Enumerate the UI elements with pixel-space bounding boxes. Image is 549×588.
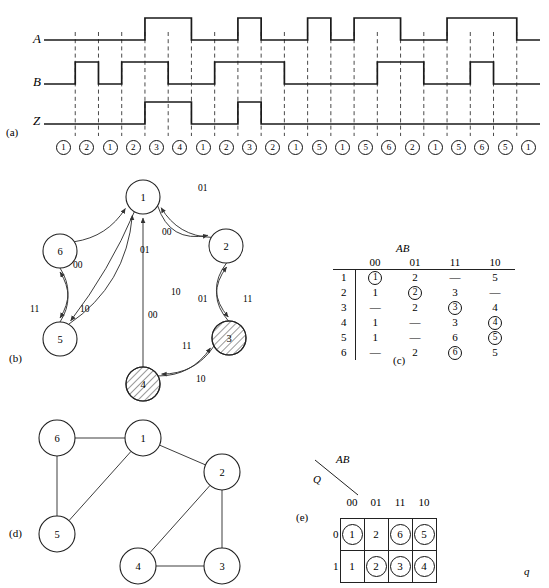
stable-state: 3 xyxy=(448,301,462,315)
merger-node: 1 xyxy=(125,420,161,456)
part-label-c: (c) xyxy=(393,354,405,366)
stable-state: 6 xyxy=(390,524,411,545)
stable-state: 5 xyxy=(488,331,502,345)
flow-table-cell: 2 xyxy=(395,269,435,285)
reduced-flow-table: 00011110 0126511234 xyxy=(332,487,437,583)
flow-table-col-header: 11 xyxy=(435,256,475,269)
stable-state: 2 xyxy=(408,286,422,300)
stable-state: 1 xyxy=(368,271,382,285)
flow-table-cell: 6 xyxy=(435,330,475,345)
stable-state: 5 xyxy=(414,524,435,545)
flow-table-cell: — xyxy=(355,345,395,360)
reduced-table-cell: 1 xyxy=(340,550,364,582)
flow-table-col-header: 10 xyxy=(475,256,515,269)
reduced-table-row-label: 0 xyxy=(332,518,340,550)
stable-state: 2 xyxy=(366,556,387,577)
state-number: 5 xyxy=(312,140,327,155)
flow-table-cell: 4 xyxy=(475,315,515,330)
flow-table-cell: 1 xyxy=(355,330,395,345)
state-cell: 1 xyxy=(331,140,354,155)
reduced-table-cell: 2 xyxy=(364,518,388,550)
reduced-input-header: AB xyxy=(336,453,349,465)
state-number: 1 xyxy=(335,140,350,155)
reduced-table-cell: 6 xyxy=(388,518,412,550)
merger-node-label: 1 xyxy=(140,433,145,444)
flow-table-row-label: 2 xyxy=(333,285,355,300)
state-number: 6 xyxy=(474,140,489,155)
merger-node-label: 6 xyxy=(54,433,59,444)
flow-table-row-label: 5 xyxy=(333,330,355,345)
state-number: 2 xyxy=(405,140,420,155)
state-cell: 5 xyxy=(308,140,331,155)
state-cell: 5 xyxy=(354,140,377,155)
reduced-table-cell: 1 xyxy=(340,518,364,550)
merger-node-label: 3 xyxy=(219,561,224,572)
flow-table-panel: AB 00011110 112—52123—3—23441—3451—656—2… xyxy=(333,244,515,360)
state-number: 1 xyxy=(521,140,536,155)
state-cell: 6 xyxy=(470,140,493,155)
flow-table-row-label: 1 xyxy=(333,269,355,285)
state-number: 5 xyxy=(451,140,466,155)
stable-state: 4 xyxy=(414,556,435,577)
state-cell: 1 xyxy=(424,140,447,155)
flow-table-cell: 4 xyxy=(475,300,515,315)
reduced-table-cell: 2 xyxy=(364,550,388,582)
reduced-table-col-header: 00 xyxy=(340,487,364,518)
part-label-e: (e) xyxy=(296,511,308,523)
flow-table-cell: 1 xyxy=(355,315,395,330)
flow-table-row-label: 6 xyxy=(333,345,355,360)
merger-edge xyxy=(160,445,206,465)
state-number: 1 xyxy=(428,140,443,155)
state-number: 5 xyxy=(358,140,373,155)
flow-table-cell: — xyxy=(475,285,515,300)
flow-table-cell: 1 xyxy=(355,285,395,300)
flow-table-row: 41—34 xyxy=(333,315,515,330)
flow-table-cell: — xyxy=(395,330,435,345)
flow-table-cell: 1 xyxy=(355,269,395,285)
reduced-table-cell: 3 xyxy=(388,550,412,582)
state-number: 1 xyxy=(288,140,303,155)
flow-table-row: 6—265 xyxy=(333,345,515,360)
flow-table-cell: 6 xyxy=(435,345,475,360)
reduced-table-col-header: 11 xyxy=(388,487,412,518)
merger-graph-panel: (d) 612543 xyxy=(0,0,290,588)
state-cell: 1 xyxy=(517,140,540,155)
merger-node-label: 4 xyxy=(135,561,141,572)
flow-table-cell: — xyxy=(435,269,475,285)
state-cell: 6 xyxy=(377,140,400,155)
flow-table: 00011110 112—52123—3—23441—3451—656—265 xyxy=(333,256,515,360)
flow-table-cell: 5 xyxy=(475,345,515,360)
flow-table-col-header: 00 xyxy=(355,256,395,269)
reduced-table-cell: 4 xyxy=(412,550,436,582)
flow-table-row: 112—5 xyxy=(333,269,515,285)
merger-graph-canvas: 612543 xyxy=(0,0,290,588)
flow-table-cell: 2 xyxy=(395,285,435,300)
flow-table-cell: 2 xyxy=(395,300,435,315)
merger-node: 2 xyxy=(204,454,240,490)
merger-node-label: 2 xyxy=(219,467,224,478)
state-number: 5 xyxy=(498,140,513,155)
flow-table-row: 2123— xyxy=(333,285,515,300)
flow-table-row: 51—65 xyxy=(333,330,515,345)
flow-table-cell: 5 xyxy=(475,269,515,285)
flow-table-cell: 3 xyxy=(435,300,475,315)
reduced-table-row: 01265 xyxy=(332,518,436,550)
flow-table-input-header: AB xyxy=(396,242,409,254)
flow-table-corner xyxy=(333,256,355,269)
state-cell: 2 xyxy=(401,140,424,155)
merger-node-label: 5 xyxy=(54,529,59,540)
flow-table-col-header: 01 xyxy=(395,256,435,269)
state-cell: 5 xyxy=(494,140,517,155)
merger-node: 3 xyxy=(204,548,240,584)
flow-table-row-label: 3 xyxy=(333,300,355,315)
merger-edge xyxy=(69,451,131,520)
flow-table-cell: — xyxy=(355,300,395,315)
stable-state: 6 xyxy=(448,346,462,360)
merger-node: 6 xyxy=(39,420,75,456)
reduced-table-corner xyxy=(332,487,340,518)
state-number: 6 xyxy=(381,140,396,155)
merger-node: 4 xyxy=(120,548,156,584)
stable-state: 4 xyxy=(488,316,502,330)
part-label-d: (d) xyxy=(9,527,22,539)
reduced-table-row-label: 1 xyxy=(332,550,340,582)
